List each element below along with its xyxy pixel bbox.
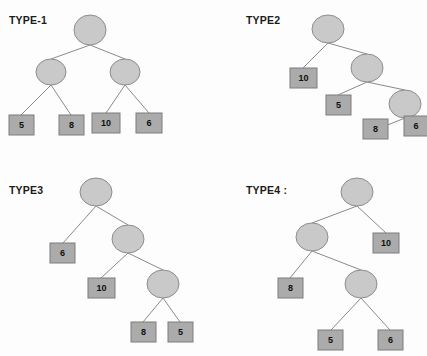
tree-node-circle-internal-1[interactable] — [112, 225, 144, 253]
tree-edge — [163, 298, 180, 322]
tree-type2: 10586 — [290, 15, 427, 139]
tree-edge — [106, 85, 125, 113]
tree-edge — [312, 206, 357, 223]
tree-node-circle-root[interactable] — [341, 178, 373, 206]
tree-node-circle-internal-1[interactable] — [351, 54, 383, 82]
tree-edge — [51, 45, 90, 59]
tree-node-circle-root[interactable] — [80, 178, 112, 206]
tree-edge — [303, 43, 328, 68]
tree-node-circle-internal-2[interactable] — [389, 90, 421, 118]
tree-edge — [290, 251, 312, 278]
tree-leaf-label: 5 — [336, 100, 341, 110]
tree-leaf-label: 6 — [388, 335, 393, 345]
tree-leaf-label: 8 — [373, 124, 378, 134]
tree-leaf-label: 8 — [288, 283, 293, 293]
tree-node-circle-internal-left[interactable] — [36, 59, 66, 85]
tree-leaf-label: 5 — [328, 335, 333, 345]
tree-leaf-label: 10 — [101, 118, 111, 128]
tree-node-circle-root[interactable] — [74, 15, 106, 45]
tree-edge — [128, 253, 163, 270]
tree-edge — [331, 298, 361, 330]
tree-edge — [367, 82, 405, 90]
tree-edge — [143, 298, 163, 322]
binary-tree-figure: TYPE-1 TYPE2 TYPE3 TYPE4 : 5810610586610… — [0, 0, 427, 356]
tree-leaf-label: 6 — [60, 248, 65, 258]
tree-node-circle-internal-2[interactable] — [345, 270, 377, 298]
tree-edge — [51, 85, 71, 115]
tree-leaf-label: 10 — [381, 238, 391, 248]
tree-leaf-label: 10 — [298, 73, 308, 83]
tree-leaf-label: 6 — [146, 118, 151, 128]
tree-diagram-canvas: 58106105866108510856 — [0, 0, 427, 356]
tree-leaf-label: 8 — [69, 120, 74, 130]
tree-edge — [312, 251, 361, 270]
tree-leaf-label: 5 — [178, 327, 183, 337]
tree-edge — [63, 206, 96, 243]
tree-node-circle-internal-1[interactable] — [296, 223, 328, 251]
tree-type4: 10856 — [278, 178, 403, 350]
tree-edge — [328, 43, 367, 54]
tree-leaf-label: 10 — [96, 283, 106, 293]
tree-leaf-label: 5 — [19, 120, 24, 130]
tree-node-circle-internal-2[interactable] — [147, 270, 179, 298]
tree-edge — [361, 298, 390, 330]
tree-leaf-label: 8 — [141, 327, 146, 337]
tree-type1: 58106 — [9, 15, 162, 135]
tree-node-circle-root[interactable] — [312, 15, 344, 43]
tree-edge — [338, 82, 367, 95]
tree-edge — [90, 45, 125, 59]
tree-leaf-label: 6 — [413, 121, 418, 131]
tree-node-circle-internal-right[interactable] — [110, 59, 140, 85]
tree-edge — [101, 253, 128, 278]
tree-edge — [96, 206, 128, 225]
tree-type3: 61085 — [50, 178, 193, 342]
tree-edge — [125, 85, 149, 113]
tree-edge — [21, 85, 51, 115]
tree-edge — [357, 206, 386, 233]
